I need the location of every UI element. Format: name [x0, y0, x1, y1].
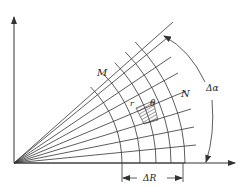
label-r: r — [130, 99, 135, 108]
polar-grid-diagram: M N r θ Δα ΔR — [0, 0, 240, 187]
label-delta-alpha: Δα — [205, 83, 219, 93]
label-n: N — [180, 88, 191, 99]
radial-lines — [14, 22, 196, 163]
delta-alpha-arc-lower — [206, 100, 213, 162]
label-m: M — [96, 67, 108, 78]
label-delta-r: ΔR — [142, 173, 156, 183]
delta-alpha-arc-upper — [164, 36, 205, 82]
label-theta: θ — [150, 98, 156, 108]
